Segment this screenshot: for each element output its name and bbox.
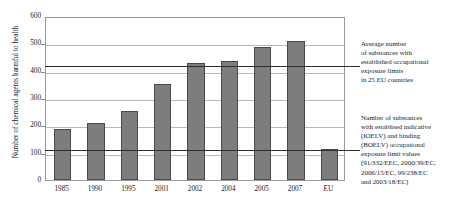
- bar: [287, 41, 304, 180]
- plot-area: [45, 17, 345, 181]
- x-axis-tick-label: 1990: [78, 185, 111, 193]
- bar: [321, 149, 338, 180]
- annotation-ioelv-boelv: Number of substanceswith establised indi…: [361, 113, 463, 186]
- y-axis-tick-label: 400: [17, 68, 41, 75]
- x-axis-tick-label: 2001: [145, 185, 178, 193]
- reference-line-average-eu-limits: [45, 66, 360, 67]
- bar: [87, 123, 104, 180]
- bar: [54, 129, 71, 180]
- y-axis-tick-label: 100: [17, 150, 41, 157]
- annotation-line: and 2003/18/EC): [361, 177, 463, 186]
- annotation-line: exposure limits: [361, 66, 463, 75]
- chart-figure: Number of chemical agents harmful to hea…: [0, 0, 463, 209]
- annotation-line: (91/332/EEC, 2000/39/EC,: [361, 158, 463, 167]
- annotation-line: 2006/15/EC, 99/238/EC: [361, 168, 463, 177]
- reference-line-ioelv-boelv-values: [45, 150, 360, 151]
- annotation-line: Number of substances: [361, 113, 463, 122]
- x-axis-tick-label: 1995: [112, 185, 145, 193]
- y-axis-tick-label: 600: [17, 13, 41, 20]
- annotation-line: in 25 EU countries: [361, 75, 463, 84]
- y-axis-tick-label: 300: [17, 95, 41, 102]
- x-axis-tick-label: 1985: [45, 185, 78, 193]
- y-axis-tick-label: 200: [17, 122, 41, 129]
- bar: [254, 47, 271, 180]
- annotation-line: (IOELV) and binding: [361, 131, 463, 140]
- x-axis-tick-label: 2002: [178, 185, 211, 193]
- x-axis-tick-label: 2005: [245, 185, 278, 193]
- x-axis-tick-label: EU: [312, 185, 345, 193]
- y-axis-tick-label: 0: [17, 177, 41, 184]
- annotation-line: exposure limit values: [361, 149, 463, 158]
- x-axis-tick-label: 2004: [212, 185, 245, 193]
- bar: [187, 63, 204, 180]
- x-axis-tick-label: 2007: [278, 185, 311, 193]
- bar: [154, 84, 171, 180]
- annotation-line: Average number: [361, 39, 463, 48]
- annotation-average-substances: Average numberof substances withestablis…: [361, 39, 463, 84]
- annotation-line: established occupational: [361, 57, 463, 66]
- annotation-line: of substances with: [361, 48, 463, 57]
- bar: [121, 111, 138, 180]
- y-axis-tick-label: 500: [17, 40, 41, 47]
- bar: [221, 61, 238, 180]
- annotation-line: (BOELV) occupational: [361, 140, 463, 149]
- annotation-line: with establised indicative: [361, 122, 463, 131]
